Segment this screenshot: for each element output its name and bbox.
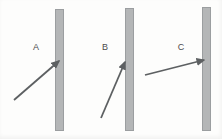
wall-bar-c (202, 7, 210, 130)
incidence-angles-diagram: ABC (0, 0, 222, 139)
diagram-canvas: ABC (0, 0, 222, 139)
panel-label-a: A (33, 42, 39, 52)
incidence-arrow-b (101, 62, 125, 118)
panel-b: B (101, 8, 133, 130)
panel-a: A (14, 9, 64, 130)
wall-bar-b (125, 8, 133, 130)
incidence-arrow-a (14, 61, 59, 100)
panel-c: C (145, 7, 210, 130)
incidence-arrow-c (145, 60, 204, 75)
wall-bar-a (56, 9, 64, 130)
panel-label-c: C (178, 42, 185, 52)
panel-label-b: B (102, 42, 108, 52)
